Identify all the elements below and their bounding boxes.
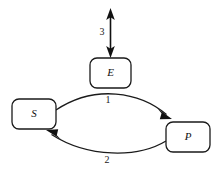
edge-product-to-substrate: 2 [46,129,166,165]
reaction-diagram: 3 1 2 E S P [0,0,221,172]
edge-substrate-to-product: 1 [56,94,172,119]
node-product: P [166,122,210,152]
edge-label-3: 3 [100,26,105,37]
node-enzyme: E [90,58,131,88]
edge-substrate-to-product-curve [56,94,167,115]
edge-label-2: 2 [105,154,110,165]
node-enzyme-label: E [106,66,114,78]
node-substrate-label: S [31,107,37,119]
node-product-label: P [184,130,192,142]
diagram-canvas: 3 1 2 E S P [0,0,221,172]
edge-product-to-substrate-curve [52,135,167,154]
edge-substrate-to-product-arrowhead [158,109,173,120]
node-substrate: S [12,99,56,129]
edge-product-to-substrate-arrowhead [46,129,61,139]
edge-label-1: 1 [106,94,111,105]
edge-enzyme-exchange: 3 [100,8,115,58]
